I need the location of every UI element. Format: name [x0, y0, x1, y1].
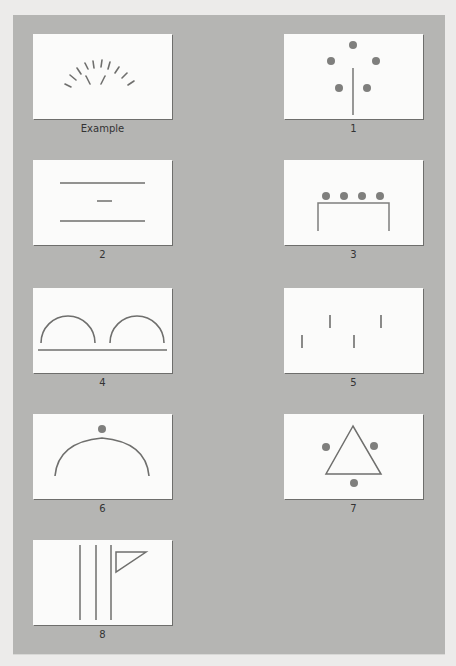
card-8: [33, 540, 172, 625]
card-6: [33, 414, 172, 499]
card-3: [284, 160, 423, 245]
card-5: [284, 288, 423, 373]
dots-and-line-icon: [284, 34, 423, 119]
staggered-strokes-icon: [284, 288, 423, 373]
card-example: [33, 34, 172, 119]
radial-ticks-icon: [33, 34, 172, 119]
card-label-6: 6: [33, 503, 172, 514]
card-4: [33, 288, 172, 373]
lines-with-flag-icon: [33, 540, 172, 625]
panel-bottom-edge: [13, 654, 445, 655]
dot-over-arc-icon: [33, 414, 172, 499]
card-label-2: 2: [33, 249, 172, 260]
twin-arches-icon: [33, 288, 172, 373]
card-label-example: Example: [33, 123, 172, 134]
card-label-4: 4: [33, 377, 172, 388]
dots-over-bracket-icon: [284, 160, 423, 245]
card-7: [284, 414, 423, 499]
card-label-3: 3: [284, 249, 423, 260]
card-2: [33, 160, 172, 245]
card-1: [284, 34, 423, 119]
card-label-1: 1: [284, 123, 423, 134]
triangle-with-dots-icon: [284, 414, 423, 499]
card-label-8: 8: [33, 629, 172, 640]
card-label-7: 7: [284, 503, 423, 514]
horizontal-lines-icon: [33, 160, 172, 245]
card-label-5: 5: [284, 377, 423, 388]
